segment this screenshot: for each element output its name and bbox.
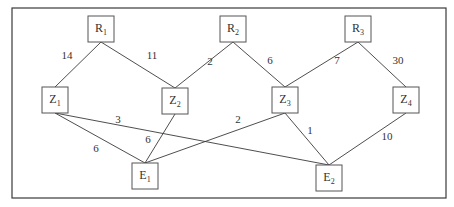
edge-weight-label: 3 xyxy=(115,113,121,125)
node-r2: R2 xyxy=(220,16,246,42)
edge-weight-label: 30 xyxy=(393,54,405,66)
node-subscript: 4 xyxy=(408,99,412,108)
node-z1: Z1 xyxy=(42,87,68,113)
node-z4: Z4 xyxy=(393,87,419,113)
node-letter: Z xyxy=(279,92,286,106)
node-subscript: 2 xyxy=(177,100,181,109)
edge-weight-label: 6 xyxy=(145,133,151,145)
edge-weight-label: 7 xyxy=(334,54,340,66)
node-e2: E2 xyxy=(316,165,342,191)
edge-weight-label: 2 xyxy=(235,113,241,125)
node-letter: Z xyxy=(400,92,407,106)
network-diagram: 1411267306362110 R1R2R3Z1Z2Z3Z4E1E2 xyxy=(0,0,454,207)
edge-z4-e2 xyxy=(329,113,406,165)
node-r3: R3 xyxy=(345,16,371,42)
edge-r1-z2 xyxy=(101,42,175,88)
node-subscript: 1 xyxy=(147,175,151,184)
node-z3: Z3 xyxy=(272,87,298,113)
edge-r2-z3 xyxy=(233,42,285,87)
node-letter: Z xyxy=(49,92,56,106)
node-subscript: 2 xyxy=(331,177,335,186)
edge-weight-label: 14 xyxy=(62,49,74,61)
edge-weight-label: 1 xyxy=(307,124,313,136)
node-letter: E xyxy=(139,168,146,182)
edge-z3-e2 xyxy=(285,113,329,165)
node-subscript: 1 xyxy=(103,28,107,37)
edge-z1-e1 xyxy=(55,113,145,163)
edge-weight-label: 6 xyxy=(93,142,99,154)
node-subscript: 2 xyxy=(235,28,239,37)
node-e1: E1 xyxy=(132,163,158,189)
node-letter: Z xyxy=(169,93,176,107)
node-z2: Z2 xyxy=(162,88,188,114)
edges-layer xyxy=(55,42,406,165)
edge-z1-e2 xyxy=(55,113,329,165)
node-letter: E xyxy=(323,170,330,184)
edge-weight-label: 11 xyxy=(147,49,158,61)
nodes-layer: R1R2R3Z1Z2Z3Z4E1E2 xyxy=(42,16,419,191)
edge-r2-z2 xyxy=(175,42,233,88)
node-letter: R xyxy=(95,21,103,35)
node-r1: R1 xyxy=(88,16,114,42)
edge-weight-label: 10 xyxy=(382,130,394,142)
edge-labels-layer: 1411267306362110 xyxy=(62,49,405,154)
edge-r3-z3 xyxy=(285,42,358,87)
node-letter: R xyxy=(352,21,360,35)
node-subscript: 3 xyxy=(287,99,291,108)
edge-z3-e1 xyxy=(145,113,285,163)
node-letter: R xyxy=(227,21,235,35)
edge-weight-label: 2 xyxy=(207,55,213,67)
node-subscript: 1 xyxy=(57,99,61,108)
edge-weight-label: 6 xyxy=(267,54,273,66)
node-subscript: 3 xyxy=(360,28,364,37)
